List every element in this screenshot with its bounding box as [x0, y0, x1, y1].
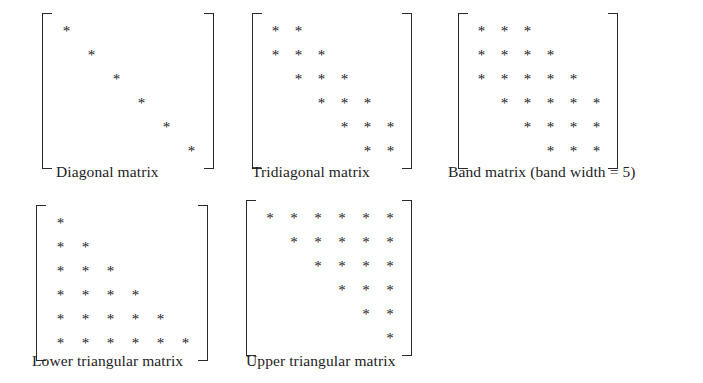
nonzero-star: * [539, 139, 562, 163]
zero-cell [54, 91, 79, 115]
nonzero-star: * [354, 230, 378, 254]
nonzero-star: * [493, 91, 516, 115]
zero-cell [516, 139, 539, 163]
nonzero-star: * [562, 139, 585, 163]
zero-cell [379, 91, 402, 115]
nonzero-star: * [73, 283, 98, 307]
zero-cell [129, 67, 154, 91]
star-grid: ********************* [246, 200, 412, 356]
bracketed-matrix: ****** [42, 13, 214, 169]
zero-cell [333, 19, 356, 43]
nonzero-star: * [333, 67, 356, 91]
nonzero-star: * [258, 206, 282, 230]
zero-cell [98, 235, 123, 259]
zero-cell [104, 91, 129, 115]
zero-cell [104, 139, 129, 163]
nonzero-star: * [123, 307, 148, 331]
caption-band: Band matrix (band width = 5) [448, 163, 636, 181]
sparse-matrix-figure: ****** Diagonal matrix **************** … [0, 0, 703, 383]
zero-cell [470, 91, 493, 115]
matrix-diagram-upper-triangular: ********************* [246, 200, 412, 356]
nonzero-star: * [306, 206, 330, 230]
zero-cell [493, 115, 516, 139]
zero-cell [104, 43, 129, 67]
star-grid: **************** [252, 13, 412, 169]
nonzero-star: * [493, 43, 516, 67]
nonzero-star: * [287, 43, 310, 67]
zero-cell [333, 139, 356, 163]
nonzero-star: * [516, 67, 539, 91]
zero-cell [179, 67, 204, 91]
zero-cell [173, 235, 198, 259]
zero-cell [264, 67, 287, 91]
nonzero-star: * [264, 43, 287, 67]
zero-cell [154, 139, 179, 163]
nonzero-star: * [378, 302, 402, 326]
zero-cell [179, 91, 204, 115]
nonzero-star: * [378, 230, 402, 254]
matrix-diagram-diagonal: ****** [42, 13, 214, 169]
star-grid: ************************ [458, 13, 618, 169]
nonzero-star: * [73, 259, 98, 283]
nonzero-star: * [310, 91, 333, 115]
zero-cell [356, 67, 379, 91]
zero-cell [54, 115, 79, 139]
zero-cell [282, 278, 306, 302]
nonzero-star: * [123, 283, 148, 307]
nonzero-star: * [98, 307, 123, 331]
zero-cell [148, 235, 173, 259]
nonzero-star: * [264, 19, 287, 43]
nonzero-star: * [306, 230, 330, 254]
zero-cell [148, 211, 173, 235]
nonzero-star: * [73, 307, 98, 331]
zero-cell [173, 211, 198, 235]
zero-cell [585, 67, 608, 91]
nonzero-star: * [73, 235, 98, 259]
zero-cell [356, 43, 379, 67]
zero-cell [73, 211, 98, 235]
nonzero-star: * [282, 206, 306, 230]
caption-tridiagonal: Tridiagonal matrix [252, 163, 370, 181]
nonzero-star: * [310, 43, 333, 67]
zero-cell [330, 302, 354, 326]
nonzero-star: * [562, 115, 585, 139]
nonzero-star: * [585, 91, 608, 115]
zero-cell [264, 139, 287, 163]
zero-cell [173, 283, 198, 307]
bracketed-matrix: ********************* [36, 205, 208, 361]
nonzero-star: * [562, 91, 585, 115]
nonzero-star: * [330, 206, 354, 230]
zero-cell [282, 326, 306, 350]
zero-cell [54, 139, 79, 163]
zero-cell [258, 254, 282, 278]
nonzero-star: * [516, 91, 539, 115]
zero-cell [264, 91, 287, 115]
nonzero-star: * [48, 259, 73, 283]
nonzero-star: * [129, 91, 154, 115]
bracketed-matrix: ********************* [246, 200, 412, 356]
zero-cell [379, 19, 402, 43]
zero-cell [330, 326, 354, 350]
nonzero-star: * [330, 278, 354, 302]
zero-cell [562, 43, 585, 67]
zero-cell [173, 307, 198, 331]
zero-cell [154, 19, 179, 43]
nonzero-star: * [333, 91, 356, 115]
zero-cell [306, 278, 330, 302]
nonzero-star: * [378, 206, 402, 230]
nonzero-star: * [356, 115, 379, 139]
nonzero-star: * [48, 283, 73, 307]
zero-cell [585, 43, 608, 67]
nonzero-star: * [356, 91, 379, 115]
zero-cell [98, 211, 123, 235]
caption-upper-triangular: Upper triangular matrix [246, 352, 396, 370]
zero-cell [129, 19, 154, 43]
nonzero-star: * [306, 254, 330, 278]
zero-cell [79, 115, 104, 139]
nonzero-star: * [48, 211, 73, 235]
zero-cell [154, 91, 179, 115]
nonzero-star: * [54, 19, 79, 43]
zero-cell [310, 115, 333, 139]
nonzero-star: * [379, 115, 402, 139]
star-grid: ****** [42, 13, 214, 169]
